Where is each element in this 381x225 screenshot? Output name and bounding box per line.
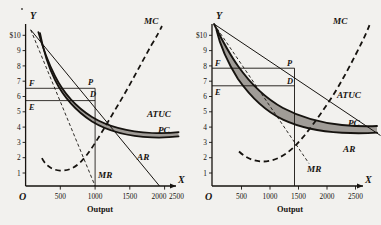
x-axis-letter: X bbox=[364, 174, 372, 185]
y-axis-letter: Y bbox=[216, 10, 223, 21]
figure-container: 1 2 3 4 5 6 7 8 9 $10 500 1000 1500 2000… bbox=[0, 0, 381, 225]
point-label-d: D bbox=[286, 77, 293, 86]
y-tick-label: 7 bbox=[17, 77, 21, 86]
reference-label-f: F bbox=[214, 59, 221, 68]
x-tick-label: 1500 bbox=[291, 192, 306, 201]
curve-label-mr: MR bbox=[97, 170, 112, 180]
chart-panel-left: 1 2 3 4 5 6 7 8 9 $10 500 1000 1500 2000… bbox=[0, 0, 190, 225]
curve-label-pc: PC bbox=[158, 125, 171, 135]
curve-label-atuc: ATUC bbox=[146, 109, 172, 119]
y-tick-label: 4 bbox=[17, 123, 21, 132]
x-tick-label: 2500 bbox=[348, 192, 363, 201]
y-tick-label: 9 bbox=[203, 46, 207, 55]
y-tick-label: 5 bbox=[203, 107, 207, 116]
origin-label: O bbox=[205, 191, 212, 202]
y-tick-label: 2 bbox=[17, 153, 21, 162]
y-tick-label: 7 bbox=[203, 77, 207, 86]
y-tick-label: $10 bbox=[10, 31, 21, 40]
y-tick-label: 1 bbox=[17, 169, 21, 178]
x-tick-label: 1000 bbox=[88, 192, 103, 201]
x-axis-letter: X bbox=[177, 174, 185, 185]
y-tick-label: 6 bbox=[17, 92, 21, 101]
y-tick-label: 1 bbox=[203, 169, 207, 178]
curve-label-atuc: ATUC bbox=[336, 90, 362, 100]
y-tick-label: 6 bbox=[203, 92, 207, 101]
x-axis-arrowhead-left bbox=[170, 184, 176, 189]
y-tick-label: $10 bbox=[196, 31, 207, 40]
x-tick-label: 1500 bbox=[122, 192, 137, 201]
reference-label-f: F bbox=[28, 79, 35, 88]
point-label-p: P bbox=[287, 59, 293, 68]
curve-label-mc: MC bbox=[143, 16, 159, 26]
y-tick-label: 2 bbox=[203, 153, 207, 162]
origin-label: O bbox=[19, 191, 26, 202]
x-tick-label: 2000 bbox=[152, 192, 167, 201]
point-label-d: D bbox=[89, 90, 96, 99]
x-tick-label: 500 bbox=[236, 192, 247, 201]
y-tick-label: 5 bbox=[17, 107, 21, 116]
x-tick-label: 1000 bbox=[263, 192, 278, 201]
curve-label-mc: MC bbox=[332, 16, 348, 26]
x-tick-label: 2500 bbox=[169, 192, 184, 201]
x-axis-title: Output bbox=[277, 205, 303, 214]
x-tick-label: 500 bbox=[55, 192, 66, 201]
y-tick-label: 3 bbox=[17, 138, 21, 147]
chart-right-svg: 1 2 3 4 5 6 7 8 9 $10 500 1000 1500 2000… bbox=[190, 0, 381, 225]
chart-left-svg: 1 2 3 4 5 6 7 8 9 $10 500 1000 1500 2000… bbox=[0, 0, 190, 225]
y-tick-label: 8 bbox=[17, 62, 21, 71]
x-axis-arrowhead-right bbox=[357, 184, 363, 189]
point-label-p: P bbox=[88, 78, 94, 87]
curve-mr-left bbox=[31, 30, 95, 186]
y-axis-letter: Y bbox=[30, 10, 37, 21]
y-tick-label: 8 bbox=[203, 62, 207, 71]
curve-label-ar: AR bbox=[342, 144, 355, 154]
x-tick-label: 2000 bbox=[320, 192, 335, 201]
scan-speck bbox=[21, 8, 23, 10]
curve-label-mr: MR bbox=[306, 164, 321, 174]
curve-mc-left bbox=[42, 26, 162, 171]
curve-label-ar: AR bbox=[136, 152, 149, 162]
x-axis-title: Output bbox=[87, 205, 113, 214]
curve-label-pc: PC bbox=[348, 118, 361, 128]
y-tick-label: 4 bbox=[203, 123, 207, 132]
chart-panel-right: 1 2 3 4 5 6 7 8 9 $10 500 1000 1500 2000… bbox=[190, 0, 380, 225]
y-tick-label: 9 bbox=[17, 46, 21, 55]
reference-label-e: E bbox=[28, 103, 35, 112]
reference-label-e: E bbox=[214, 88, 221, 97]
y-tick-label: 3 bbox=[203, 138, 207, 147]
